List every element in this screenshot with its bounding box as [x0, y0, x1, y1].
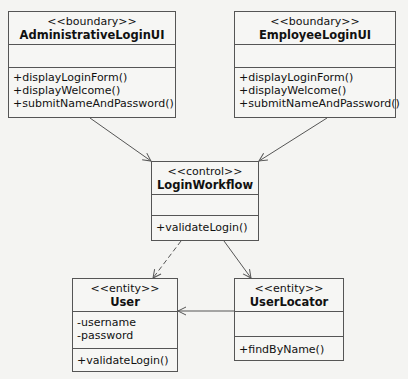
stereotype: <<entity>> [73, 282, 177, 295]
attributes-section [152, 195, 258, 215]
operations-section: +displayLoginForm() +displayWelcome() +s… [9, 67, 175, 110]
operations-section: +validateLogin() [152, 215, 258, 234]
operations-section: +validateLogin() [73, 348, 177, 367]
class-user-locator[interactable]: <<entity>> UserLocator +findByName() [234, 278, 344, 361]
class-name: LoginWorkflow [152, 178, 258, 193]
class-administrative-login-ui[interactable]: <<boundary>> AdministrativeLoginUI +disp… [8, 11, 176, 118]
stereotype: <<control>> [152, 165, 258, 178]
stereotype: <<boundary>> [235, 15, 395, 28]
operation: +displayWelcome() [239, 84, 395, 97]
attributes-section [9, 45, 175, 67]
stereotype: <<entity>> [235, 282, 343, 295]
operation: +submitNameAndPassword() [13, 97, 175, 110]
operations-section: +findByName() [235, 336, 343, 356]
attribute: -password [77, 329, 177, 342]
operation: +findByName() [239, 343, 343, 356]
class-header: <<control>> LoginWorkflow [152, 162, 258, 195]
edge-admin-to-workflow [90, 118, 151, 161]
attribute: -username [77, 316, 177, 329]
class-login-workflow[interactable]: <<control>> LoginWorkflow +validateLogin… [151, 161, 259, 241]
operation: +displayLoginForm() [239, 71, 395, 84]
operation: +submitNameAndPassword() [239, 97, 395, 110]
class-user[interactable]: <<entity>> User -username -password +val… [72, 278, 178, 372]
class-header: <<boundary>> EmployeeLoginUI [235, 12, 395, 45]
stereotype: <<boundary>> [9, 15, 175, 28]
operation: +displayLoginForm() [13, 71, 175, 84]
operation: +displayWelcome() [13, 84, 175, 97]
operation: +validateLogin() [156, 221, 258, 234]
class-employee-login-ui[interactable]: <<boundary>> EmployeeLoginUI +displayLog… [234, 11, 396, 118]
edge-workflow-to-user-dashed [153, 241, 181, 278]
edge-employee-to-workflow [259, 118, 327, 161]
operations-section: +displayLoginForm() +displayWelcome() +s… [235, 67, 395, 110]
operation: +validateLogin() [77, 354, 177, 367]
edge-workflow-to-locator [224, 241, 251, 278]
attributes-section [235, 45, 395, 67]
class-name: EmployeeLoginUI [235, 28, 395, 43]
class-header: <<entity>> User [73, 279, 177, 312]
class-name: User [73, 295, 177, 310]
attributes-section [235, 312, 343, 336]
attributes-section: -username -password [73, 312, 177, 348]
class-header: <<entity>> UserLocator [235, 279, 343, 312]
class-header: <<boundary>> AdministrativeLoginUI [9, 12, 175, 45]
class-name: AdministrativeLoginUI [9, 28, 175, 43]
class-name: UserLocator [235, 295, 343, 310]
